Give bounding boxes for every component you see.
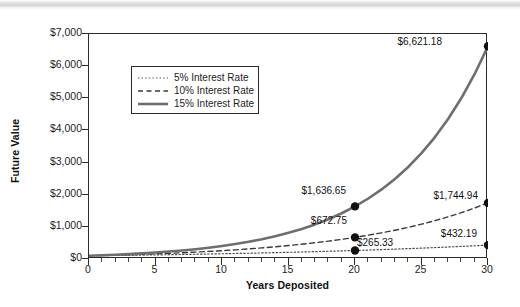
- y-tick-label: $3,000: [20, 156, 82, 167]
- x-minor-tick: [434, 258, 435, 262]
- x-tick-label: 0: [68, 264, 108, 275]
- data-point-marker: [484, 199, 488, 207]
- y-axis-labels: $0$1,000$2,000$3,000$4,000$5,000$6,000$7…: [12, 0, 82, 307]
- x-minor-tick: [407, 258, 408, 262]
- x-minor-tick: [394, 258, 395, 262]
- chart-legend: 5% Interest Rate 10% Interest Rate 15% I…: [131, 66, 259, 114]
- legend-item-15: 15% Interest Rate: [137, 97, 252, 110]
- x-tick-label: 30: [467, 264, 507, 275]
- x-minor-tick: [181, 258, 182, 262]
- y-tick-label: $7,000: [20, 27, 82, 38]
- x-minor-tick: [115, 258, 116, 262]
- x-minor-tick: [367, 258, 368, 262]
- legend-swatch-dotted-icon: [137, 72, 169, 84]
- point-label-10pct-year20: $672.75: [285, 215, 347, 226]
- x-minor-tick: [301, 258, 302, 262]
- point-label-10pct-year30: $1,744.94: [402, 190, 478, 201]
- y-tick-label: $4,000: [20, 123, 82, 134]
- point-label-5pct-year30: $432.19: [415, 228, 477, 239]
- x-axis-title: Years Deposited: [88, 279, 487, 291]
- legend-swatch-solid-icon: [137, 98, 169, 110]
- point-label-5pct-year20: $265.33: [357, 237, 419, 248]
- x-minor-tick: [141, 258, 142, 262]
- legend-label-10: 10% Interest Rate: [169, 85, 254, 97]
- x-minor-tick: [447, 258, 448, 262]
- y-axis-title: Future Value: [9, 105, 21, 197]
- y-tick-label: $1,000: [20, 220, 82, 231]
- data-point-marker: [484, 42, 488, 50]
- x-minor-tick: [274, 258, 275, 262]
- data-point-marker: [484, 241, 488, 249]
- x-minor-tick: [128, 258, 129, 262]
- x-minor-tick: [168, 258, 169, 262]
- x-minor-tick: [341, 258, 342, 262]
- x-minor-tick: [327, 258, 328, 262]
- legend-item-5: 5% Interest Rate: [137, 71, 252, 84]
- y-tick-label: $0: [20, 252, 82, 263]
- y-tick-label: $6,000: [20, 59, 82, 70]
- legend-swatch-dashed-icon: [137, 85, 169, 97]
- y-tick-label: $2,000: [20, 188, 82, 199]
- x-tick-label: 5: [135, 264, 175, 275]
- x-minor-tick: [208, 258, 209, 262]
- legend-label-15: 15% Interest Rate: [169, 98, 254, 110]
- x-tick-label: 20: [334, 264, 374, 275]
- future-value-line-chart: $0$1,000$2,000$3,000$4,000$5,000$6,000$7…: [0, 0, 520, 307]
- legend-label-5: 5% Interest Rate: [169, 72, 248, 84]
- x-minor-tick: [194, 258, 195, 262]
- point-label-15pct-year20: $1,636.65: [270, 185, 346, 196]
- point-label-15pct-year30: $6,621.18: [366, 36, 442, 47]
- legend-item-10: 10% Interest Rate: [137, 84, 252, 97]
- x-minor-tick: [234, 258, 235, 262]
- x-minor-tick: [248, 258, 249, 262]
- data-point-marker: [351, 202, 359, 210]
- x-minor-tick: [261, 258, 262, 262]
- x-minor-tick: [381, 258, 382, 262]
- x-tick-label: 15: [268, 264, 308, 275]
- x-minor-tick: [314, 258, 315, 262]
- x-minor-tick: [474, 258, 475, 262]
- x-minor-tick: [460, 258, 461, 262]
- x-minor-tick: [101, 258, 102, 262]
- x-tick-label: 25: [401, 264, 441, 275]
- y-tick-label: $5,000: [20, 91, 82, 102]
- x-tick-label: 10: [201, 264, 241, 275]
